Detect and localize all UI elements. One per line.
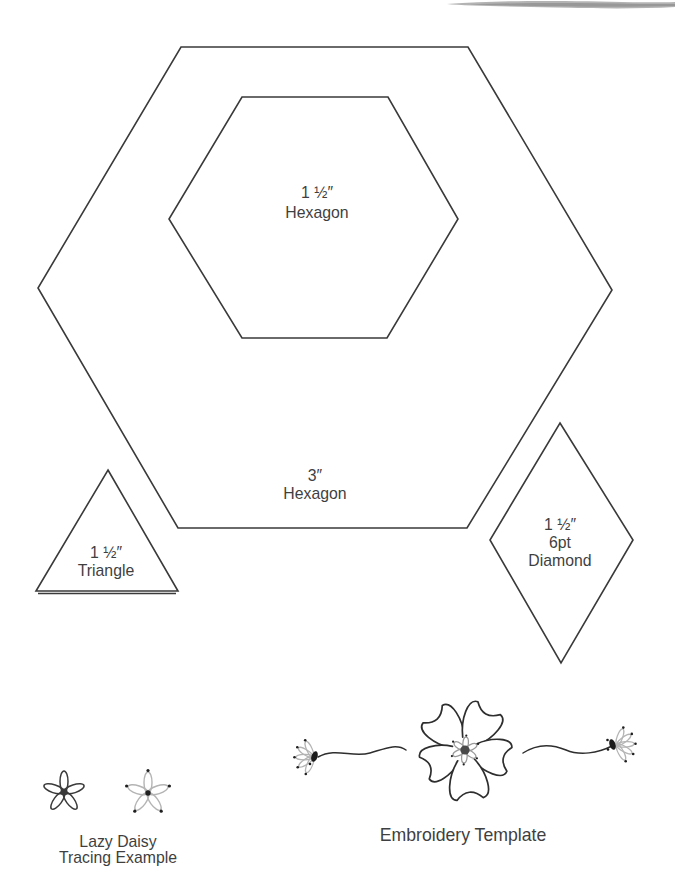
large-hexagon-name-text: Hexagon bbox=[283, 485, 346, 503]
large-hexagon-size-text: 3″ bbox=[283, 467, 346, 485]
right-stem bbox=[523, 745, 612, 753]
small-hexagon-name-text: Hexagon bbox=[285, 203, 348, 223]
diamond-size-text: 1 ½″ bbox=[528, 516, 591, 534]
template-shapes-canvas bbox=[0, 0, 675, 889]
left-bud-dot bbox=[309, 763, 312, 766]
lazy-daisy-traced-example bbox=[43, 771, 85, 811]
small-hexagon-size-text: 1 ½″ bbox=[285, 183, 348, 203]
left-stem bbox=[318, 747, 406, 757]
right-bud-dot-b bbox=[607, 748, 610, 751]
small-hexagon-label: 1 ½″ Hexagon bbox=[285, 183, 348, 223]
triangle-size-text: 1 ½″ bbox=[78, 544, 135, 562]
embroidery-template-caption: Embroidery Template bbox=[380, 826, 547, 844]
triangle-label: 1 ½″ Triangle bbox=[78, 544, 135, 580]
right-bud-dot-a bbox=[606, 739, 609, 742]
lazy-daisy-label: Lazy Daisy Tracing Example bbox=[59, 834, 177, 866]
diamond-label: 1 ½″ 6pt Diamond bbox=[528, 516, 591, 570]
right-daisy-bud bbox=[614, 726, 636, 762]
large-hexagon-shape bbox=[38, 47, 612, 528]
template-page: 1 ½″ Hexagon 3″ Hexagon 1 ½″ Triangle 1 … bbox=[0, 0, 675, 889]
diamond-name-text: Diamond bbox=[528, 552, 591, 570]
diamond-points-text: 6pt bbox=[528, 534, 591, 552]
lazy-daisy-dotted-example bbox=[125, 769, 171, 813]
lazy-daisy-label-line2: Tracing Example bbox=[59, 850, 177, 866]
embroidery-template-label: Embroidery Template bbox=[380, 826, 547, 844]
large-hexagon-label: 3″ Hexagon bbox=[283, 467, 346, 503]
triangle-name-text: Triangle bbox=[78, 562, 135, 580]
